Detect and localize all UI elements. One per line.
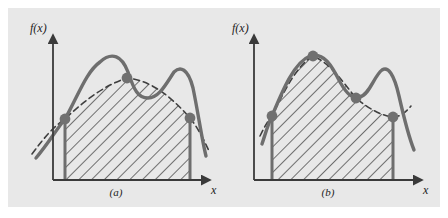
node-middle-a [122,73,133,84]
y-axis-label-b: f(x) [232,21,249,35]
node-right-b [351,93,362,104]
caption-panel-b: (b) [298,186,358,198]
node-far-right-b [388,112,399,123]
caption-panel-a: (a) [86,186,146,198]
panel-a-plot: f(x) x [8,8,224,207]
x-axis-label-a: x [210,183,217,197]
node-middle-b [308,51,319,62]
node-right-a [185,113,196,124]
figure-plate: f(x) x [8,8,440,207]
y-axis-label-a: f(x) [30,21,47,35]
node-left-a [60,114,71,125]
panel-b: f(x) x [220,8,436,207]
panel-b-plot: f(x) x [220,8,436,207]
node-left-b [267,111,278,122]
hatched-region-a [65,78,190,180]
panel-a: f(x) x [8,8,224,207]
x-axis-label-b: x [422,183,429,197]
figure-root: f(x) x [0,0,448,218]
